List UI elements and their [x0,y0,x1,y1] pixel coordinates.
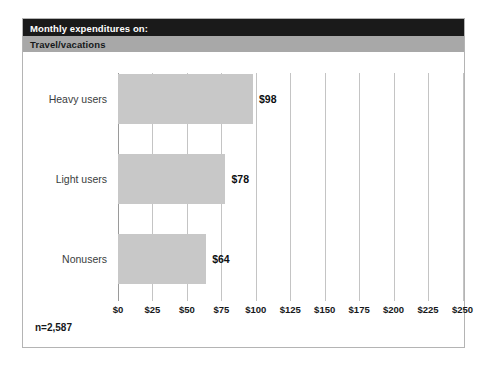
chart-subtitle: Travel/vacations [30,39,106,50]
bar-row: Nonusers$64 [23,234,464,284]
category-label: Nonusers [62,253,107,265]
bar-value-label: $98 [259,93,277,105]
chart-plot-area: $0$25$50$75$100$125$150$175$200$225$250 … [23,52,464,347]
x-tick-label: $225 [417,304,438,315]
category-label: Light users [56,173,107,185]
bar-value-label: $64 [212,253,230,265]
bar-row: Light users$78 [23,154,464,204]
x-tick-label: $0 [113,304,124,315]
bar[interactable] [118,154,225,204]
x-tick-label: $250 [452,304,473,315]
bar[interactable] [118,74,253,124]
bar-row: Heavy users$98 [23,74,464,124]
x-tick-label: $125 [280,304,301,315]
category-label: Heavy users [49,93,107,105]
x-tick-label: $175 [349,304,370,315]
x-tick-label: $100 [245,304,266,315]
chart-title-bar: Monthly expenditures on: [23,19,464,36]
chart-title: Monthly expenditures on: [30,22,148,33]
bar-value-label: $78 [231,173,249,185]
bar[interactable] [118,234,206,284]
chart-card: Monthly expenditures on: Travel/vacation… [22,18,465,348]
x-tick-label: $150 [314,304,335,315]
x-tick-label: $25 [145,304,161,315]
x-tick-label: $50 [179,304,195,315]
x-tick-label: $75 [213,304,229,315]
sample-size-note: n=2,587 [35,322,72,333]
chart-subtitle-bar: Travel/vacations [23,36,464,52]
x-tick-label: $200 [383,304,404,315]
